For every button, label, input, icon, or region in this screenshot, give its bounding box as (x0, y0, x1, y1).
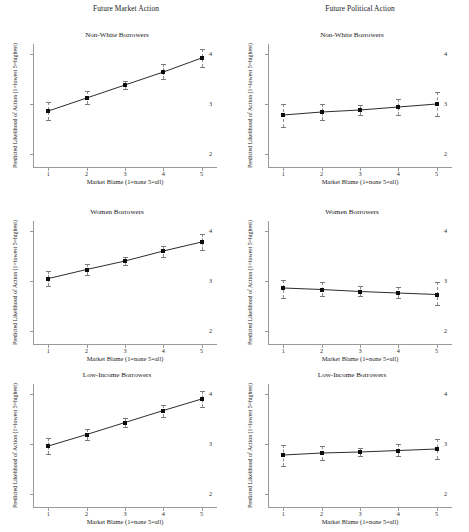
x-axis-tick-label: 4 (397, 171, 400, 177)
error-bar-cap (396, 99, 401, 100)
data-point-marker (161, 409, 165, 413)
y-axis-title: Predicted Likelihood of Action (1=lowest… (247, 384, 253, 508)
panel-title: Non-White Borrowers (235, 31, 469, 39)
error-bar-cap (85, 440, 90, 441)
data-point-marker (123, 259, 127, 263)
plot-area: 23412345 (268, 384, 452, 508)
error-bar-cap (358, 296, 363, 297)
x-axis-tick-label: 2 (85, 348, 88, 354)
column-title-political: Future Political Action (252, 4, 468, 13)
data-point-marker (46, 277, 50, 281)
error-bar-cap (281, 298, 286, 299)
data-point-marker (435, 102, 439, 106)
x-axis-tick-label: 5 (200, 171, 203, 177)
error-bar-cap (320, 296, 325, 297)
x-axis-tick-label: 4 (162, 171, 165, 177)
x-axis-tick-label: 5 (435, 511, 438, 517)
column-title-market: Future Market Action (18, 4, 234, 13)
panel-market-nonwhite: Non-White Borrowers23412345Market Blame … (0, 18, 234, 195)
data-point-marker (358, 108, 362, 112)
data-point-marker (320, 451, 324, 455)
data-point-marker (161, 249, 165, 253)
error-bar-cap (85, 91, 90, 92)
error-bar-cap (200, 49, 205, 50)
error-bar-cap (200, 250, 205, 251)
x-axis-tick-label: 5 (200, 511, 203, 517)
error-bar-cap (200, 234, 205, 235)
error-bar-cap (46, 454, 51, 455)
x-axis-tick-label: 1 (282, 348, 285, 354)
data-point-marker (200, 56, 204, 60)
series-line (268, 384, 452, 508)
data-point-marker (123, 83, 127, 87)
y-axis-title: Predicted Likelihood of Action (1=lowest… (12, 221, 18, 345)
data-point-marker (200, 397, 204, 401)
error-bar-cap (320, 282, 325, 283)
error-bar-cap (161, 64, 166, 65)
x-axis-tick-label: 4 (162, 348, 165, 354)
error-bar-cap (85, 264, 90, 265)
x-axis-title: Market Blame (1=none 5=all) (33, 178, 217, 185)
error-bar-cap (46, 438, 51, 439)
x-axis-tick-label: 5 (435, 348, 438, 354)
plot-area: 23412345 (268, 44, 452, 168)
error-bar-cap (123, 81, 128, 82)
error-bar-cap (435, 439, 440, 440)
x-axis-tick-label: 3 (358, 171, 361, 177)
panel-title: Women Borrowers (235, 208, 469, 216)
error-bar-cap (396, 444, 401, 445)
x-axis-title: Market Blame (1=none 5=all) (268, 178, 452, 185)
x-axis-tick-label: 3 (123, 511, 126, 517)
error-bar-cap (161, 417, 166, 418)
x-axis-title: Market Blame (1=none 5=all) (33, 518, 217, 525)
x-axis-tick-label: 4 (397, 348, 400, 354)
error-bar-cap (46, 271, 51, 272)
error-bar-cap (435, 282, 440, 283)
x-axis-tick-label: 2 (320, 348, 323, 354)
error-bar-cap (396, 287, 401, 288)
error-bar-cap (85, 429, 90, 430)
x-axis-tick-label: 3 (123, 348, 126, 354)
panel-title: Low-Income Borrowers (0, 371, 234, 379)
y-axis-title: Predicted Likelihood of Action (1=lowest… (12, 44, 18, 168)
error-bar-cap (435, 305, 440, 306)
x-axis-tick-label: 3 (123, 171, 126, 177)
error-bar-cap (396, 298, 401, 299)
error-bar-cap (123, 89, 128, 90)
plot-area: 23412345 (33, 221, 217, 345)
error-bar-cap (396, 456, 401, 457)
data-point-marker (396, 449, 400, 453)
error-bar-cap (435, 92, 440, 93)
error-bar-cap (320, 446, 325, 447)
panel-political-lowincome: Low-Income Borrowers23412345Market Blame… (235, 358, 469, 532)
error-bar-cap (123, 418, 128, 419)
series-line (33, 384, 217, 508)
data-point-marker (320, 110, 324, 114)
x-axis-tick-label: 3 (358, 511, 361, 517)
data-point-marker (435, 293, 439, 297)
panel-market-women: Women Borrowers23412345Market Blame (1=n… (0, 195, 234, 372)
error-bar-cap (161, 79, 166, 80)
data-point-marker (281, 113, 285, 117)
data-point-marker (320, 288, 324, 292)
panel-title: Non-White Borrowers (0, 31, 234, 39)
error-bar-cap (200, 67, 205, 68)
data-point-marker (358, 290, 362, 294)
data-point-marker (46, 109, 50, 113)
error-bar-cap (161, 257, 166, 258)
figure-panel-grid: Future Market Action Future Political Ac… (0, 0, 469, 532)
data-point-marker (46, 444, 50, 448)
error-bar-cap (435, 116, 440, 117)
y-axis-title: Predicted Likelihood of Action (1=lowest… (247, 44, 253, 168)
error-bar-cap (161, 405, 166, 406)
x-axis-tick-label: 2 (85, 511, 88, 517)
error-bar-cap (281, 445, 286, 446)
error-bar-cap (281, 104, 286, 105)
x-axis-tick-label: 4 (397, 511, 400, 517)
data-point-marker (123, 421, 127, 425)
error-bar-cap (85, 104, 90, 105)
error-bar-cap (46, 120, 51, 121)
error-bar-cap (435, 459, 440, 460)
error-bar-cap (200, 407, 205, 408)
data-point-marker (200, 240, 204, 244)
